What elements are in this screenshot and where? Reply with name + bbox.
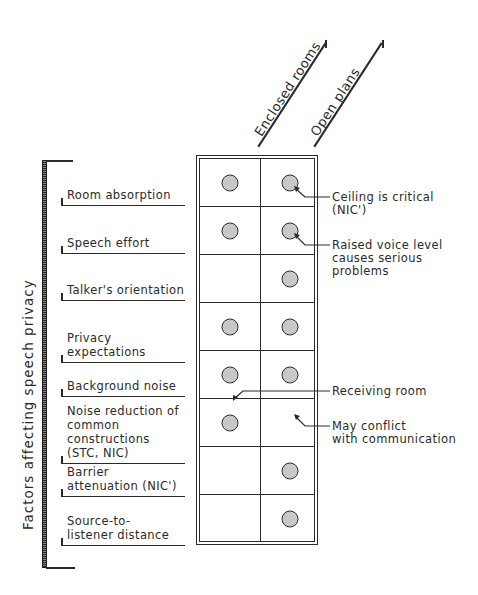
note-line: problems: [332, 265, 443, 278]
raised-voice-callout-arrow-icon: [296, 236, 330, 245]
callout-leaders: [0, 0, 478, 595]
note-receiving-room: Receiving room: [332, 385, 427, 398]
note-line: Receiving room: [332, 385, 427, 398]
may-conflict-callout-arrow-icon: [296, 417, 330, 426]
note-ceiling-critical: Ceiling is critical (NIC'): [332, 191, 434, 217]
note-may-conflict: May conflict with communication: [332, 420, 456, 446]
note-line: (NIC'): [332, 204, 434, 217]
note-raised-voice: Raised voice level causes serious proble…: [332, 239, 443, 278]
ceiling-callout-arrow-icon: [296, 189, 330, 197]
note-line: with communication: [332, 433, 456, 446]
receiving-room-callout-arrow-icon: [235, 391, 330, 398]
